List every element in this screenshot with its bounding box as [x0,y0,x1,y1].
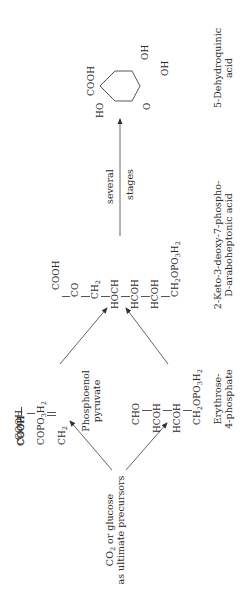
pep-bond-1 [27,413,35,414]
pep-atom-ch2: CH2 [57,426,67,445]
dahp-bond-2 [81,296,90,297]
ery-bond-3 [183,410,192,411]
dehydroquinic-name: 5-Dehydroquinic acid [212,18,234,118]
dq-keto: O [142,102,152,110]
dahp-atom-hoch: HOCH [110,279,120,309]
ery-bond-2 [163,410,172,411]
cyclohexane-ring-icon [100,71,140,101]
ery-atom-ch2opo3h2: CH2OPO3H2 [192,369,202,425]
arrow-pep-to-dahp-icon [60,308,107,364]
pep-name: Phosphoenol pyruvate [80,366,102,436]
dahp-atom-hcoh-2: HCOH [150,279,160,309]
step-label-above: several [104,169,115,204]
dahp-atom-ch2: CH2 [90,280,100,299]
shikimate-pathway-diagram: CO2 or glucose as ultimate precursors CO… [0,0,244,616]
pep-double-bond-b [47,415,56,416]
dq-ho: HO [95,102,105,118]
pep-atom-cooh: COOH [16,416,26,446]
pep-double-bond-a [47,412,56,413]
dahp-atom-hcoh-1: HCOH [130,279,140,309]
ery-atom-hcoh-1: HCOH [152,403,162,433]
dahp-bond-1 [62,296,70,297]
ery-bond-1 [142,410,152,411]
arrow-erythrose-to-dahp-icon [126,308,168,364]
dq-oh-top: OH [140,44,150,60]
dahp-atom-ch2opo3h2: CH2OPO3H2 [170,241,180,297]
precursor-label: CO2 or glucose as ultimate precursors [104,474,126,586]
step-label-below: stages [124,169,135,200]
dahp-atom-co: CO [70,283,80,297]
erythrose-name: Erythrose- 4-phosphate [212,364,234,434]
dahp-atom-cooh: COOH [51,261,61,291]
dahp-bond-4 [121,296,130,297]
dahp-name: 2-Keto-3-deoxy-7-phospho- D-araboheptoni… [212,170,234,320]
dq-oh-bottom: OH [160,60,170,76]
pep-atom-copo3h2: COPO3H2 [36,401,46,445]
dahp-bond-6 [161,296,170,297]
dq-cooh: COOH [86,66,96,96]
ery-atom-cho: CHO [131,403,141,425]
dahp-bond-3 [101,296,110,297]
dahp-bond-5 [141,296,150,297]
ery-atom-hcoh-2: HCOH [172,403,182,433]
